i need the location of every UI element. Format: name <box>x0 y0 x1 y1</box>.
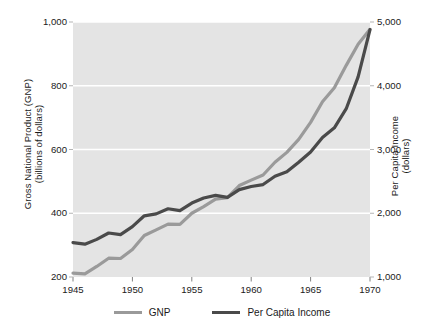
y-tick-label-right: 5,000 <box>377 16 435 27</box>
x-tick-label: 1970 <box>346 284 394 295</box>
x-tick-label: 1950 <box>108 284 156 295</box>
y-tick-label-left: 800 <box>8 80 67 91</box>
y-axis-left-tick-marks <box>69 22 73 277</box>
x-tick-label: 1960 <box>227 284 275 295</box>
legend-item[interactable]: Per Capita Income <box>212 307 330 318</box>
y-tick-label-right: 1,000 <box>377 271 435 282</box>
y-tick-label-left: 600 <box>8 144 67 155</box>
legend-label: Per Capita Income <box>247 307 330 318</box>
y-axis-right-title-line1: Per Capita Income <box>389 116 400 196</box>
legend-swatch-icon <box>114 311 142 314</box>
legend-swatch-icon <box>212 311 240 314</box>
y-tick-label-right: 4,000 <box>377 80 435 91</box>
chart-figure: Gross National Product (GNP) (billions o… <box>0 0 444 328</box>
legend-label: GNP <box>149 307 171 318</box>
legend-item[interactable]: GNP <box>114 307 171 318</box>
y-tick-label-right: 3,000 <box>377 144 435 155</box>
y-tick-label-right: 2,000 <box>377 207 435 218</box>
x-axis-tick-marks <box>73 277 370 282</box>
x-tick-label: 1965 <box>287 284 335 295</box>
y-tick-label-left: 200 <box>8 271 67 282</box>
chart-legend: GNPPer Capita Income <box>0 307 444 318</box>
x-tick-label: 1955 <box>168 284 216 295</box>
y-tick-label-left: 400 <box>8 207 67 218</box>
x-tick-label: 1945 <box>49 284 97 295</box>
y-tick-label-left: 1,000 <box>8 16 67 27</box>
y-axis-right-tick-marks <box>370 22 374 277</box>
